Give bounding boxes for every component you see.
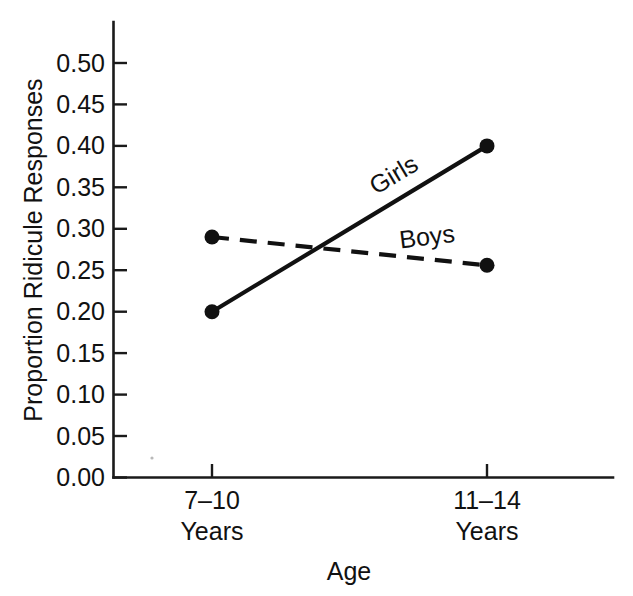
x-axis-tick-labels: 7–10 Years 11–14 Years bbox=[180, 486, 520, 545]
figure-canvas: 0.00 0.05 0.10 0.15 0.20 0.25 0.30 0.35 … bbox=[0, 0, 633, 596]
x-tick-label-7-10-range: 7–10 bbox=[184, 486, 240, 514]
y-tick-label-0.15: 0.15 bbox=[56, 339, 105, 367]
boys-point-11-14 bbox=[480, 258, 495, 273]
y-tick-label-0.00: 0.00 bbox=[56, 463, 105, 491]
x-tick-label-11-14-unit: Years bbox=[455, 517, 518, 545]
line-chart: 0.00 0.05 0.10 0.15 0.20 0.25 0.30 0.35 … bbox=[0, 0, 633, 596]
y-tick-label-0.25: 0.25 bbox=[56, 256, 105, 284]
y-tick-label-0.35: 0.35 bbox=[56, 173, 105, 201]
y-tick-label-0.40: 0.40 bbox=[56, 131, 105, 159]
y-tick-label-0.20: 0.20 bbox=[56, 297, 105, 325]
y-tick-label-0.10: 0.10 bbox=[56, 380, 105, 408]
x-tick-label-11-14-range: 11–14 bbox=[453, 486, 521, 514]
x-axis-ticks bbox=[212, 464, 487, 478]
x-axis-title: Age bbox=[327, 557, 371, 585]
girls-point-11-14 bbox=[480, 138, 495, 153]
series-label-boys: Boys bbox=[398, 219, 457, 254]
x-tick-label-7-10-unit: Years bbox=[180, 517, 243, 545]
axes-group bbox=[114, 22, 614, 478]
y-axis-ticks bbox=[114, 63, 128, 478]
y-tick-label-0.05: 0.05 bbox=[56, 422, 105, 450]
y-tick-label-0.30: 0.30 bbox=[56, 214, 105, 242]
y-axis-title: Proportion Ridicule Responses bbox=[19, 78, 47, 421]
scan-speck bbox=[150, 456, 153, 459]
girls-point-7-10 bbox=[205, 304, 220, 319]
y-axis-tick-labels: 0.00 0.05 0.10 0.15 0.20 0.25 0.30 0.35 … bbox=[56, 49, 105, 492]
boys-point-7-10 bbox=[205, 230, 220, 245]
y-tick-label-0.50: 0.50 bbox=[56, 49, 105, 77]
y-tick-label-0.45: 0.45 bbox=[56, 90, 105, 118]
